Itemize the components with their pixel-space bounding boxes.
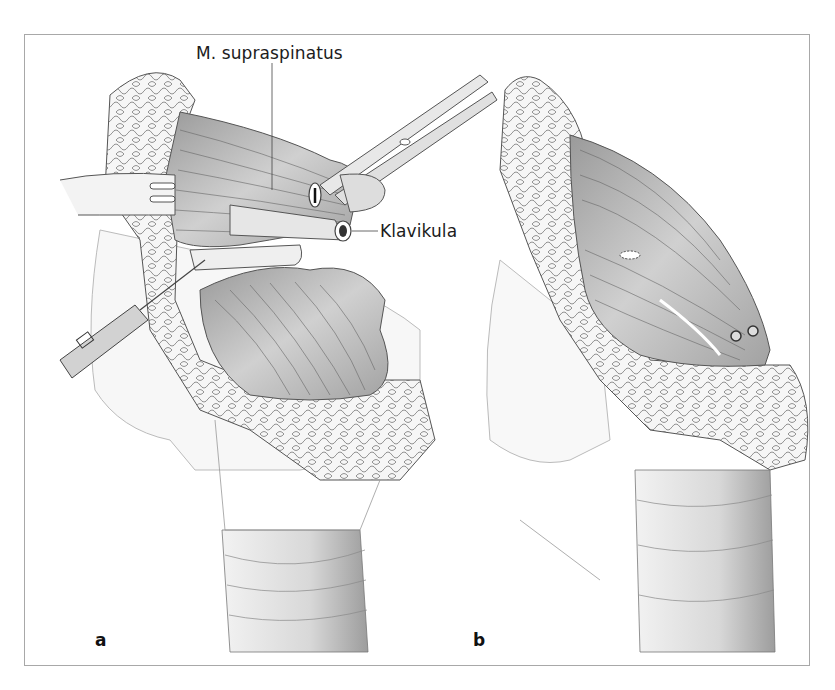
label-klavikula: Klavikula: [380, 221, 457, 241]
retractor-icon: [60, 173, 175, 215]
panel-label-b: b: [473, 630, 485, 650]
arm-sleeve-b: [635, 470, 775, 652]
panel-label-a: a: [95, 630, 106, 650]
panel-b-drawing: [487, 77, 808, 652]
panel-a-drawing: [60, 63, 497, 652]
label-m-supraspinatus: M. supraspinatus: [196, 43, 343, 63]
anchor-screw-2: [748, 326, 758, 336]
anchor-screw-1: [731, 331, 741, 341]
clamp-instrument-icon: [320, 75, 497, 212]
anatomical-illustration: [0, 0, 835, 690]
